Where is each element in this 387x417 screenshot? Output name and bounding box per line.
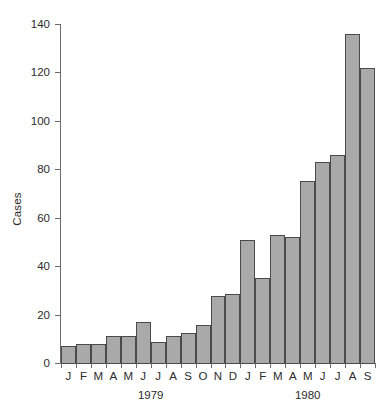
y-tick-mark xyxy=(55,218,60,219)
bar xyxy=(106,336,121,364)
bar xyxy=(151,342,166,364)
bar xyxy=(76,344,91,364)
bar xyxy=(91,344,106,364)
y-tick-label: 140 xyxy=(10,18,50,30)
x-tick-label: M xyxy=(120,370,136,382)
x-tick-label: S xyxy=(180,370,196,382)
x-tick-mark xyxy=(345,363,346,368)
y-tick-label: 0 xyxy=(10,357,50,369)
y-tick-label: 60 xyxy=(10,212,50,224)
bar xyxy=(345,34,360,364)
bar xyxy=(166,336,181,364)
x-tick-mark xyxy=(91,363,92,368)
x-tick-mark xyxy=(211,363,212,368)
y-tick-mark xyxy=(55,363,60,364)
bar xyxy=(285,237,300,364)
bar xyxy=(196,325,211,364)
x-tick-label: J xyxy=(150,370,166,382)
y-axis-line xyxy=(60,24,61,364)
bar xyxy=(225,294,240,364)
y-tick-mark xyxy=(55,266,60,267)
bar xyxy=(360,68,375,364)
bar xyxy=(181,333,196,364)
x-tick-label: J xyxy=(240,370,256,382)
x-tick-mark xyxy=(181,363,182,368)
x-tick-label: J xyxy=(315,370,331,382)
x-tick-label: O xyxy=(195,370,211,382)
y-tick-label: 100 xyxy=(10,115,50,127)
y-tick-label: 20 xyxy=(10,309,50,321)
bar xyxy=(211,296,226,364)
year-label: 1980 xyxy=(278,389,338,401)
x-tick-label: F xyxy=(75,370,91,382)
x-tick-mark xyxy=(375,363,376,368)
x-tick-mark xyxy=(300,363,301,368)
x-tick-label: M xyxy=(90,370,106,382)
x-tick-mark xyxy=(136,363,137,368)
x-tick-label: J xyxy=(135,370,151,382)
x-tick-label: J xyxy=(60,370,76,382)
y-tick-mark xyxy=(55,72,60,73)
x-tick-label: A xyxy=(165,370,181,382)
year-label: 1979 xyxy=(121,389,181,401)
y-tick-label: 120 xyxy=(10,66,50,78)
x-tick-mark xyxy=(61,363,62,368)
x-tick-mark xyxy=(166,363,167,368)
x-tick-label: N xyxy=(210,370,226,382)
y-tick-label: 80 xyxy=(10,163,50,175)
bar xyxy=(270,235,285,364)
x-tick-label: A xyxy=(285,370,301,382)
y-tick-mark xyxy=(55,24,60,25)
x-tick-mark xyxy=(255,363,256,368)
x-tick-mark xyxy=(121,363,122,368)
x-tick-label: F xyxy=(255,370,271,382)
x-tick-label: S xyxy=(360,370,376,382)
x-tick-mark xyxy=(151,363,152,368)
y-tick-mark xyxy=(55,169,60,170)
bar xyxy=(136,322,151,364)
x-tick-mark xyxy=(315,363,316,368)
bar-chart: Cases 020406080100120140 JFMAMJJASONDJFM… xyxy=(0,0,387,417)
x-tick-mark xyxy=(76,363,77,368)
bar xyxy=(255,278,270,364)
x-tick-mark xyxy=(106,363,107,368)
x-tick-mark xyxy=(270,363,271,368)
x-tick-mark xyxy=(330,363,331,368)
x-tick-label: M xyxy=(300,370,316,382)
bar xyxy=(300,181,315,364)
x-tick-mark xyxy=(285,363,286,368)
bar xyxy=(330,155,345,364)
y-tick-label: 40 xyxy=(10,260,50,272)
x-tick-label: J xyxy=(330,370,346,382)
bar xyxy=(121,336,136,364)
x-tick-label: A xyxy=(345,370,361,382)
x-tick-label: M xyxy=(270,370,286,382)
x-tick-mark xyxy=(225,363,226,368)
bar xyxy=(61,346,76,364)
y-tick-mark xyxy=(55,121,60,122)
y-axis-title: Cases xyxy=(6,0,28,417)
bar xyxy=(240,240,255,364)
x-tick-mark xyxy=(360,363,361,368)
x-tick-mark xyxy=(240,363,241,368)
y-tick-mark xyxy=(55,315,60,316)
x-tick-label: D xyxy=(225,370,241,382)
x-tick-mark xyxy=(196,363,197,368)
x-tick-label: A xyxy=(105,370,121,382)
bar xyxy=(315,162,330,364)
